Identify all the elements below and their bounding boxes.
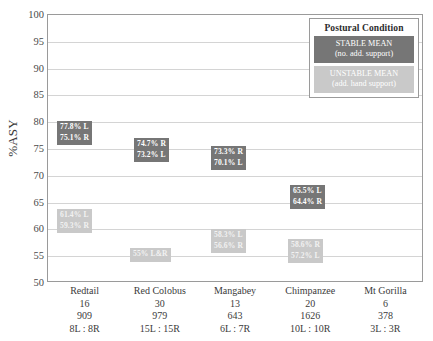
- legend-entry-stable-mean: STABLE MEAN (no. add. support): [314, 36, 414, 63]
- data-label-line-2: 57.2% L: [291, 251, 320, 262]
- data-label-line-2: 59.3% R: [60, 221, 89, 232]
- y-tick-90: 90: [16, 62, 44, 73]
- data-label-line-1: 61.4% L: [60, 210, 89, 221]
- y-axis-tick-labels: 100 95 90 85 80 75 70 65 60 55 50: [16, 14, 44, 282]
- data-label-mangabey-stable: 73.3% R 70.1% L: [211, 146, 246, 170]
- x-category-ratio: 6L : 7R: [197, 323, 272, 336]
- data-label-chimpanzee-unstable: 58.6% R 57.2% L: [288, 239, 323, 263]
- data-label-line-2: 70.1% L: [214, 158, 243, 169]
- data-label-line-1: 74.7% R: [137, 139, 166, 150]
- data-label-line-2: 73.2% L: [137, 150, 166, 161]
- legend: Postural Condition STABLE MEAN (no. add.…: [309, 18, 419, 98]
- data-label-chimpanzee-stable: 65.5% L 64.4% R: [290, 185, 325, 209]
- x-category-n: 6: [348, 298, 423, 311]
- x-category-n: 13: [197, 298, 272, 311]
- y-tick-55: 55: [16, 250, 44, 261]
- chart-container: %ASY 100 95 90 85 80 75 70 65 60 55 50 7…: [0, 0, 433, 341]
- gridline-70: [48, 176, 422, 177]
- y-tick-80: 80: [16, 116, 44, 127]
- data-label-colobus-unstable: 55% L&R: [130, 248, 171, 262]
- data-label-redtail-unstable: 61.4% L 59.3% R: [57, 209, 92, 233]
- legend-entry-label: STABLE MEAN: [336, 39, 392, 48]
- y-tick-60: 60: [16, 223, 44, 234]
- x-category-n: 16: [47, 298, 122, 311]
- y-tick-65: 65: [16, 196, 44, 207]
- x-category-n: 20: [273, 298, 348, 311]
- x-category-steps: 979: [122, 310, 197, 323]
- y-tick-95: 95: [16, 35, 44, 46]
- gridline-80: [48, 122, 422, 123]
- data-label-mangabey-unstable: 58.3% L 56.6% R: [211, 229, 246, 253]
- x-category-steps: 1626: [273, 310, 348, 323]
- data-label-line-2: 56.6% R: [214, 241, 243, 252]
- data-label-line-1: 58.6% R: [291, 240, 320, 251]
- data-label-line-1: 55% L&R: [133, 249, 168, 260]
- x-category-ratio: 15L : 15R: [122, 323, 197, 336]
- x-category-ratio: 10L : 10R: [273, 323, 348, 336]
- x-category-name: Red Colobus: [122, 285, 197, 298]
- legend-entry-unstable-mean: UNSTABLE MEAN (add. hand support): [314, 66, 414, 93]
- y-tick-85: 85: [16, 89, 44, 100]
- data-label-line-1: 58.3% L: [214, 230, 243, 241]
- x-category-mangabey: Mangabey 13 643 6L : 7R: [197, 285, 272, 339]
- gridline-65: [48, 203, 422, 204]
- x-category-steps: 378: [348, 310, 423, 323]
- y-tick-100: 100: [16, 9, 44, 20]
- data-label-colobus-stable: 74.7% R 73.2% L: [134, 138, 169, 162]
- data-label-line-2: 75.1% R: [60, 133, 89, 144]
- data-label-line-2: 64.4% R: [293, 197, 322, 208]
- x-category-name: Redtail: [47, 285, 122, 298]
- legend-title: Postural Condition: [314, 22, 414, 36]
- x-category-mt-gorilla: Mt Gorilla 6 378 3L : 3R: [348, 285, 423, 339]
- x-axis-category-labels: Redtail 16 909 8L : 8R Red Colobus 30 97…: [47, 285, 423, 339]
- legend-entry-sublabel: (add. hand support): [316, 79, 412, 89]
- x-category-steps: 643: [197, 310, 272, 323]
- data-label-line-1: 73.3% R: [214, 147, 243, 158]
- x-category-name: Chimpanzee: [273, 285, 348, 298]
- x-category-name: Mt Gorilla: [348, 285, 423, 298]
- x-category-red-colobus: Red Colobus 30 979 15L : 15R: [122, 285, 197, 339]
- x-category-steps: 909: [47, 310, 122, 323]
- y-tick-50: 50: [16, 277, 44, 288]
- data-label-redtail-stable: 77.8% L 75.1% R: [57, 121, 92, 145]
- x-category-n: 30: [122, 298, 197, 311]
- data-label-line-1: 77.8% L: [60, 122, 89, 133]
- y-tick-70: 70: [16, 169, 44, 180]
- x-category-ratio: 8L : 8R: [47, 323, 122, 336]
- y-tick-75: 75: [16, 143, 44, 154]
- x-category-chimpanzee: Chimpanzee 20 1626 10L : 10R: [273, 285, 348, 339]
- x-category-ratio: 3L : 3R: [348, 323, 423, 336]
- gridline-55: [48, 256, 422, 257]
- data-label-line-1: 65.5% L: [293, 186, 322, 197]
- legend-entry-sublabel: (no. add. support): [316, 49, 412, 59]
- x-category-redtail: Redtail 16 909 8L : 8R: [47, 285, 122, 339]
- legend-entry-label: UNSTABLE MEAN: [330, 69, 398, 78]
- x-category-name: Mangabey: [197, 285, 272, 298]
